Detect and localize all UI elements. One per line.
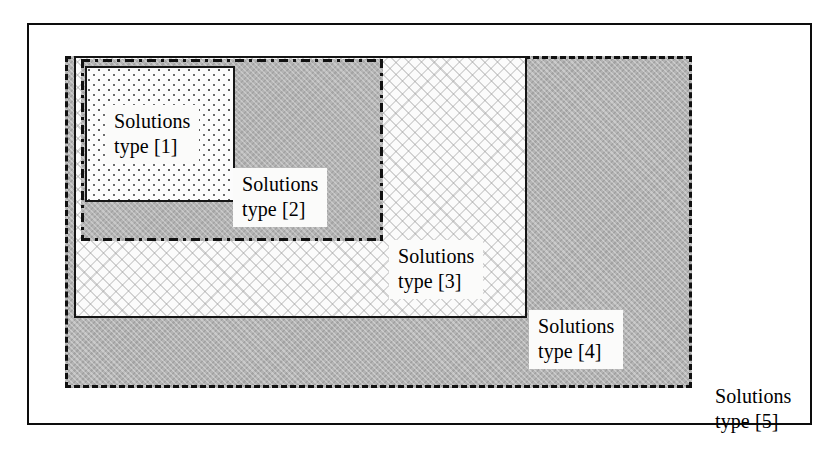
label-solutions-type-5: Solutions type [5] bbox=[706, 380, 800, 439]
region-2-border-right bbox=[380, 59, 383, 241]
diagram-canvas: Solutions type [1] Solutions type [2] So… bbox=[0, 0, 838, 449]
region-2-border-bottom bbox=[81, 238, 383, 241]
region-2-border-left bbox=[81, 59, 84, 241]
label-solutions-type-1: Solutions type [1] bbox=[105, 105, 199, 164]
region-solutions-type-5: Solutions type [1] Solutions type [2] So… bbox=[27, 23, 812, 425]
label-solutions-type-4: Solutions type [4] bbox=[529, 310, 623, 369]
region-2-border-top bbox=[81, 59, 383, 62]
label-solutions-type-2: Solutions type [2] bbox=[233, 168, 327, 227]
label-solutions-type-3: Solutions type [3] bbox=[389, 240, 483, 299]
